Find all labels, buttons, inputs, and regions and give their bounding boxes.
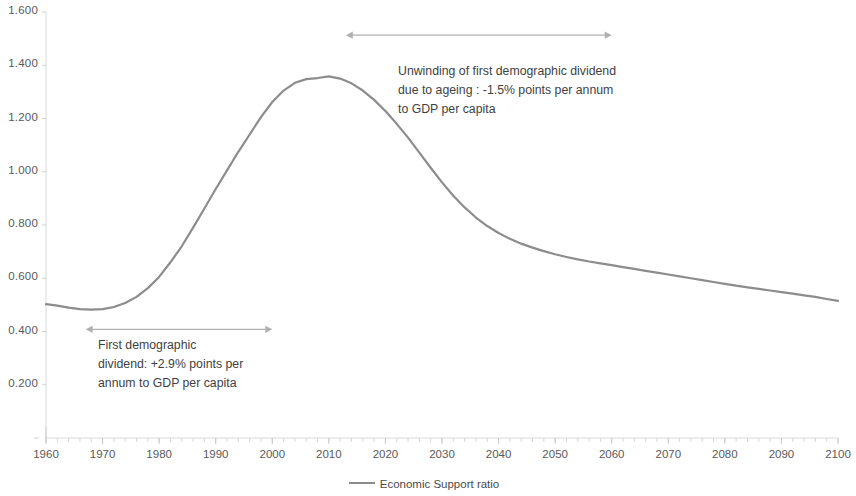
x-axis-tick-label-2090: 2090 [758,448,804,460]
x-axis-tick-label-2000: 2000 [249,448,295,460]
x-axis-tick-label-2080: 2080 [702,448,748,460]
y-axis-tick-label-0.800: 0.800 [0,217,38,229]
unwinding-dividend-line-3: to GDP per capita [398,100,616,119]
unwinding-dividend-line-2: due to ageing : -1.5% points per annum [398,81,616,100]
y-axis-tick-label-0.200: 0.200 [0,377,38,389]
arrow-unwinding-of-dividend-head-right [605,32,612,39]
x-axis-tick-label-2020: 2020 [362,448,408,460]
unwinding-dividend-line-1: Unwinding of first demographic dividend [398,62,616,81]
x-axis-tick-label-1960: 1960 [23,448,69,460]
y-axis-tick-label-0.600: 0.600 [0,270,38,282]
y-axis-tick-label-0.400: 0.400 [0,324,38,336]
y-axis-tick-label-1.600: 1.600 [0,4,38,16]
y-axis-tick-label-1.200: 1.200 [0,111,38,123]
x-axis-tick-label-2070: 2070 [645,448,691,460]
arrow-first-demographic-dividend-head-left [86,326,93,333]
arrow-unwinding-of-dividend-head-left [346,32,353,39]
x-axis-tick-label-2040: 2040 [476,448,522,460]
x-axis-tick-label-1990: 1990 [193,448,239,460]
x-axis-tick-label-1980: 1980 [136,448,182,460]
x-axis-tick-label-2050: 2050 [532,448,578,460]
x-axis-tick-label-1970: 1970 [80,448,126,460]
legend-label-economic-support-ratio: Economic Support ratio [380,478,500,490]
first-dividend-line-3: annum to GDP per capita [98,374,243,393]
legend-line-swatch [349,482,375,484]
x-axis-tick-label-2100: 2100 [815,448,856,460]
annotation-first-demographic-dividend: First demographicdividend: +2.9% points … [98,336,243,393]
x-axis-tick-label-2030: 2030 [419,448,465,460]
annotation-unwinding-of-dividend: Unwinding of first demographic dividendd… [398,62,616,119]
chart-legend: Economic Support ratio [0,477,848,490]
x-axis-tick-label-2060: 2060 [589,448,635,460]
y-axis-tick-label-1.000: 1.000 [0,164,38,176]
first-dividend-line-1: First demographic [98,336,243,355]
arrow-first-demographic-dividend-head-right [265,326,272,333]
first-dividend-line-2: dividend: +2.9% points per [98,355,243,374]
x-axis-tick-label-2010: 2010 [306,448,352,460]
y-axis-tick-label-1.400: 1.400 [0,57,38,69]
